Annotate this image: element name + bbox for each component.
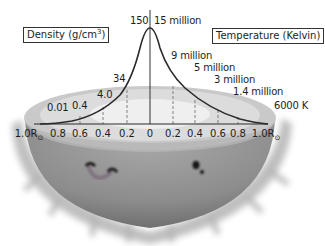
tick-right-0.8: 0.8 [230,128,246,139]
temperature-legend-label: Temperature (Kelvin) [216,30,320,41]
solar-radius-symbol: ⊙ [274,134,280,142]
tick-right-0.6: 0.6 [210,128,226,139]
tick-right-1.0: 1.0R⊙ [252,128,281,144]
tick-unit: R [31,128,38,139]
tick-left-1.0: 1.0R⊙ [15,128,44,144]
tick-right-0.4: 0.4 [187,128,203,139]
tick-value: 1.0 [252,128,268,139]
tick-left-0.4: 0.4 [95,128,111,139]
density-legend-label: Density (g/cm [27,29,97,40]
density-value-0.4: 4.0 [97,89,112,100]
temperature-legend-box: Temperature (Kelvin) [212,28,324,44]
tick-unit: R [268,128,275,139]
sun-interior-diagram: Density (g/cm3) Temperature (Kelvin) 150… [0,0,325,246]
temperature-value-0.8: 1.4 million [233,86,283,97]
density-legend-box: Density (g/cm3) [23,27,109,43]
density-value-0.6: 0.4 [72,100,87,111]
temperature-value-0.2: 9 million [171,50,212,61]
density-legend-close: ) [102,29,106,40]
density-peak-label: 150 [130,15,149,26]
tick-right-0.2: 0.2 [165,128,181,139]
density-value-0.8: 0.01 [47,102,68,113]
tick-left-0.6: 0.6 [72,128,88,139]
tick-left-0.2: 0.2 [119,128,135,139]
temperature-value-1.0: 6000 K [274,100,308,111]
solar-radius-symbol: ⊙ [37,134,43,142]
tick-center-0: 0 [147,128,153,139]
density-value-0.2: 34 [113,73,125,84]
tick-value: 1.0 [15,128,31,139]
tick-left-0.8: 0.8 [50,128,66,139]
temperature-value-0.4: 5 million [194,62,235,73]
temperature-value-0.6: 3 million [214,74,255,85]
temperature-peak-label: 15 million [154,15,201,26]
